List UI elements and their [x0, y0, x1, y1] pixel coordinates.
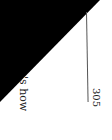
body-text-fragment: 's how	[17, 76, 30, 111]
page-number: 305	[91, 88, 102, 107]
margin-rule	[86, 12, 89, 102]
scan-background	[0, 0, 112, 140]
